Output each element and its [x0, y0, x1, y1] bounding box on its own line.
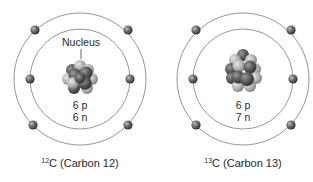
mass-number: 12	[41, 157, 49, 164]
atom-carbon-13: 6 p 7 n 13C (Carbon 13)	[177, 13, 309, 169]
electron	[28, 120, 37, 129]
electron	[123, 25, 132, 34]
electron	[288, 74, 297, 83]
electron	[25, 74, 34, 83]
proton-count: 6 p	[73, 99, 88, 111]
isotope-caption: 13C (Carbon 13)	[204, 157, 282, 169]
electron	[286, 25, 295, 34]
electron	[125, 74, 134, 83]
electron	[123, 120, 132, 129]
isotope-name: (Carbon 13)	[220, 157, 282, 169]
atom-carbon-12: Nucleus 6 p 6 n 12C (Carbon 12)	[14, 13, 146, 169]
nucleus-label: Nucleus	[62, 36, 100, 48]
electron	[286, 120, 295, 129]
electron	[30, 25, 39, 34]
nucleus	[225, 49, 262, 92]
electron	[191, 25, 200, 34]
isotope-diagram: Nucleus 6 p 6 n 12C (Carbon 12)	[0, 0, 313, 182]
isotope-name: (Carbon 12)	[57, 157, 119, 169]
element-symbol: C	[49, 157, 57, 169]
element-symbol: C	[212, 157, 220, 169]
neutron-count: 7 n	[236, 111, 251, 123]
electron	[188, 74, 197, 83]
nucleus	[62, 60, 98, 94]
mass-number: 13	[204, 157, 212, 164]
isotope-caption: 12C (Carbon 12)	[41, 157, 119, 169]
neutron-count: 6 n	[73, 111, 88, 123]
electron	[191, 120, 200, 129]
proton-count: 6 p	[236, 99, 251, 111]
